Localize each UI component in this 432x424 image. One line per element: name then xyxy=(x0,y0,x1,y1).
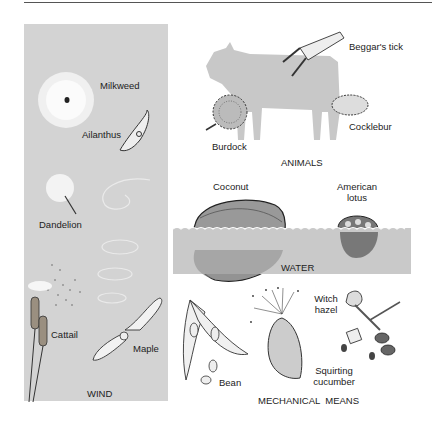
label-squirting-cucumber-line2: cucumber xyxy=(308,376,360,387)
section-label-wind: WIND xyxy=(87,388,112,399)
label-american-lotus-line1: American xyxy=(332,181,382,192)
label-beggars-tick: Beggar's tick xyxy=(349,41,403,52)
label-squirting-cucumber-line1: Squirting xyxy=(308,365,360,376)
label-witch-hazel-line1: Witch xyxy=(309,293,343,304)
label-witch-hazel-line2: hazel xyxy=(309,304,343,315)
label-cocklebur: Cocklebur xyxy=(349,121,392,132)
label-milkweed: Milkweed xyxy=(100,80,140,91)
label-american-lotus: American lotus xyxy=(332,181,382,203)
section-label-water: WATER xyxy=(281,262,314,273)
label-ailanthus: Ailanthus xyxy=(82,129,121,140)
section-label-animals: ANIMALS xyxy=(281,157,323,168)
label-burdock: Burdock xyxy=(212,141,247,152)
section-label-mechanical: MECHANICAL MEANS xyxy=(258,395,359,406)
water-overlay xyxy=(0,0,432,424)
label-bean: Bean xyxy=(219,377,241,388)
label-witch-hazel: Witch hazel xyxy=(309,293,343,315)
label-squirting-cucumber: Squirting cucumber xyxy=(308,365,360,387)
label-cattail: Cattail xyxy=(51,329,78,340)
label-dandelion: Dandelion xyxy=(39,219,82,230)
label-coconut: Coconut xyxy=(213,181,248,192)
label-american-lotus-line2: lotus xyxy=(332,192,382,203)
label-maple: Maple xyxy=(133,343,159,354)
